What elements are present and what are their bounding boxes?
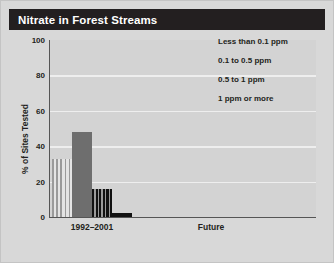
x-tick-label: Future <box>198 222 224 232</box>
legend-item: 0.1 to 0.5 ppm <box>201 53 323 67</box>
y-tick-label: 100 <box>32 36 45 45</box>
bar-series-2-group-0 <box>92 189 112 217</box>
y-tick-label: 80 <box>36 71 45 80</box>
chart-figure: Nitrate in Forest Streams % of Sites Tes… <box>0 0 334 263</box>
y-tick-label: 20 <box>36 177 45 186</box>
plot-region: % of Sites Tested 100 80 60 40 20 0 1992… <box>9 30 325 250</box>
page-title: Nitrate in Forest Streams <box>18 14 157 26</box>
legend-item-label: 0.5 to 1 ppm <box>218 75 265 84</box>
chart-legend: Less than 0.1 ppm 0.1 to 0.5 ppm 0.5 to … <box>201 34 323 110</box>
legend-swatch-icon <box>201 36 212 47</box>
bar-series-3-group-0 <box>112 213 132 217</box>
legend-item: 0.5 to 1 ppm <box>201 72 323 86</box>
y-tick-label: 60 <box>36 106 45 115</box>
legend-swatch-icon <box>201 55 212 66</box>
x-axis-tick-labels: 1992–2001 Future <box>49 222 315 238</box>
legend-item-label: 1 ppm or more <box>218 94 274 103</box>
legend-item-label: Less than 0.1 ppm <box>218 37 288 46</box>
legend-swatch-icon <box>201 93 212 104</box>
legend-item: 1 ppm or more <box>201 91 323 105</box>
y-tick-label: 40 <box>36 142 45 151</box>
legend-swatch-icon <box>201 74 212 85</box>
x-tick-label: 1992–2001 <box>71 222 114 232</box>
chart-title-bar: Nitrate in Forest Streams <box>9 9 325 30</box>
legend-item-label: 0.1 to 0.5 ppm <box>218 56 271 65</box>
y-tick-label: 0 <box>41 213 45 222</box>
bar-series-1-group-0 <box>72 132 92 217</box>
legend-item: Less than 0.1 ppm <box>201 34 323 48</box>
y-axis-tick-labels: 100 80 60 40 20 0 <box>25 40 45 217</box>
bar-series-0-group-0 <box>52 159 72 217</box>
